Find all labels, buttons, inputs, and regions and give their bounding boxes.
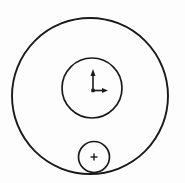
diagram-canvas [0, 0, 185, 183]
outer-circle [12, 18, 168, 174]
coordinate-axis-marker [91, 69, 109, 93]
y-axis-arrowhead-icon [91, 69, 96, 76]
circles-axis-diagram [0, 0, 185, 183]
center-cross-mark [91, 154, 98, 161]
x-axis-arrowhead-icon [102, 88, 108, 93]
inner-circle [62, 58, 122, 118]
axis-origin-marker-icon [91, 89, 94, 92]
